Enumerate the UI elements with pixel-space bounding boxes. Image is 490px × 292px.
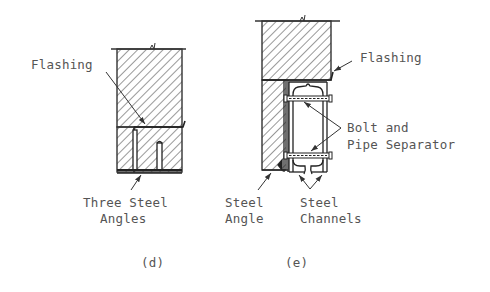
wall-break-line-e [255,15,340,21]
masonry-wall-lower-e [262,80,286,170]
label-channels-e: Channels [300,210,362,227]
figure-d [106,43,186,190]
label-three-steel-d: Three Steel [83,194,168,211]
label-flashing-d: Flashing [31,56,93,73]
label-pipe-separator-e: Pipe Separator [347,136,455,153]
caption-e: (e) [285,254,308,271]
label-steel-channels-e: Steel [300,194,339,211]
figure-e [255,15,352,190]
angles-leader-d [131,175,141,190]
masonry-wall-upper-e [262,21,331,80]
wall-break-line-d [111,43,186,49]
bolt-leader-bottom-e [311,128,341,151]
label-bolt-and-e: Bolt and [347,119,409,136]
label-flashing-e: Flashing [360,49,422,66]
flashing-leader-e [334,61,352,71]
masonry-lower-left-d [117,127,134,172]
angle-leader-e [258,173,271,190]
channels-leader-right-e [310,175,322,189]
channels-leader-left-e [299,175,310,189]
label-angle-e: Angle [225,210,264,227]
label-steel-angle-e: Steel [225,194,264,211]
bolt-separator-top-e [284,95,332,102]
caption-d: (d) [141,254,164,271]
masonry-wall-d [117,49,182,127]
bolt-separator-bottom-e [284,152,332,159]
label-angles-d: Angles [100,210,146,227]
